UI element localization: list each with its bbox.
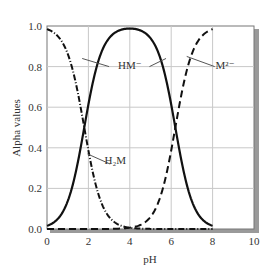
y-tick-label: 0.8 <box>28 61 42 73</box>
y-tick-label: 0.0 <box>28 223 42 235</box>
x-tick-label: 4 <box>127 235 133 247</box>
y-tick-labels: 0.00.20.40.60.81.0 <box>28 20 42 235</box>
x-tick-label: 0 <box>44 235 50 247</box>
plot-area <box>47 26 254 229</box>
y-axis-label: Alpha values <box>10 99 22 157</box>
y-tick-label: 0.2 <box>28 182 42 194</box>
alpha-plot: 0246810 0.00.20.40.60.81.0 HM⁻M²⁻H₂M pH … <box>0 0 271 274</box>
annotation-label: HM⁻ <box>118 59 142 71</box>
x-tick-label: 8 <box>210 235 216 247</box>
y-tick-label: 1.0 <box>28 20 42 32</box>
annotation-label: M²⁻ <box>216 59 235 71</box>
x-tick-label: 10 <box>249 235 261 247</box>
annotation-label: H₂M <box>105 154 127 166</box>
x-tick-labels: 0246810 <box>44 235 260 247</box>
y-tick-label: 0.4 <box>28 142 42 154</box>
x-tick-label: 6 <box>168 235 174 247</box>
y-tick-label: 0.6 <box>28 101 42 113</box>
x-tick-label: 2 <box>86 235 92 247</box>
x-axis-label: pH <box>143 253 157 265</box>
